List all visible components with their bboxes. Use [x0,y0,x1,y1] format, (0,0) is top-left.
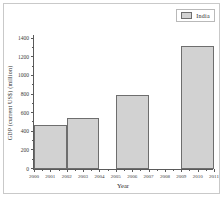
y-tick-label: 1400 [18,36,29,42]
x-tick-label: 2005 [111,174,121,179]
y-tick-label: 600 [21,110,29,116]
x-tick [50,169,51,172]
x-tick-label: 2003 [78,174,88,179]
x-tick-minor [91,169,92,171]
x-tick [34,169,35,172]
y-tick-label: 200 [21,148,29,154]
legend-label-india: India [196,13,210,19]
x-tick-label: 2001 [45,174,55,179]
x-axis-title: Year [33,182,213,189]
y-tick-label: 1200 [18,55,29,61]
x-tick-minor [140,169,141,171]
x-tick [99,169,100,172]
bar [181,46,214,169]
x-tick-label: 2007 [144,174,154,179]
x-tick [67,169,68,172]
x-tick [149,169,150,172]
x-tick-minor [189,169,190,171]
x-tick-minor [157,169,158,171]
x-tick-minor [124,169,125,171]
x-tick-label: 2009 [176,174,186,179]
x-tick-label: 2000 [29,174,39,179]
x-tick-label: 2002 [62,174,72,179]
x-tick [214,169,215,172]
x-tick-label: 2004 [94,174,104,179]
x-tick [198,169,199,172]
x-tick-label: 2010 [193,174,203,179]
bar [67,118,100,169]
bar [34,125,67,170]
bar [116,95,149,169]
x-tick-label: 2008 [160,174,170,179]
y-axis-title-text: GDP (current US$) (million) [7,65,13,140]
x-tick [165,169,166,172]
x-tick [132,169,133,172]
bar-series-india [34,35,213,169]
legend-swatch-india [181,12,192,19]
y-tick-label: 800 [21,92,29,98]
x-tick-minor [108,169,109,171]
x-tick [116,169,117,172]
plot-area: 0200400600800100012001400 20002001200220… [33,35,213,170]
y-tick-label: 0 [26,166,29,172]
y-tick-label: 1000 [18,73,29,79]
x-tick-label: 2006 [127,174,137,179]
x-tick [83,169,84,172]
x-tick-minor [42,169,43,171]
x-tick-minor [206,169,207,171]
chart-figure: India GDP (current US$) (million) 020040… [0,0,223,197]
x-tick-label: 2011 [209,174,219,179]
chart-legend: India [176,9,215,22]
x-tick-minor [75,169,76,171]
y-tick-label: 400 [21,129,29,135]
x-tick-minor [173,169,174,171]
x-tick-minor [59,169,60,171]
y-axis-title: GDP (current US$) (million) [4,35,16,170]
x-tick [181,169,182,172]
